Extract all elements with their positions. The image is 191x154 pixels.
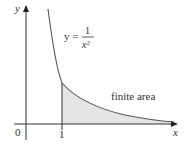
region-label: finite area (111, 90, 155, 102)
equation-numerator: 1 (85, 25, 90, 36)
origin-label: 0 (15, 126, 21, 138)
y-axis-label: y (14, 2, 20, 14)
x-axis-label: x (172, 126, 178, 138)
graph: y x 0 1 finite area y = 1 x² (0, 0, 191, 154)
equation-denominator: x² (81, 39, 90, 50)
equation-lhs: y = (64, 30, 78, 42)
y-axis-arrow-icon (23, 5, 29, 12)
tick-label-1: 1 (59, 128, 65, 140)
